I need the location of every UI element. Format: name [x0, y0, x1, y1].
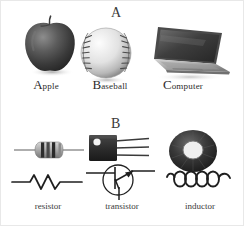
transistor-schematic-symbol: [85, 163, 157, 201]
panel-a: A: [1, 1, 244, 113]
inductor-schematic-symbol: [165, 169, 233, 191]
computer-label: Computer: [141, 75, 225, 93]
resistor-label: resistor: [13, 201, 83, 211]
resistor-schematic-symbol: [11, 171, 83, 193]
panel-a-letter: A: [111, 5, 122, 21]
figure-container: A: [0, 0, 244, 226]
transistor-label: transistor: [87, 201, 157, 211]
panel-b: B: [1, 113, 244, 226]
transistor-photo: [87, 133, 153, 163]
baseball-label-rest: aseball: [101, 81, 127, 91]
apple-label-capital: A: [33, 77, 42, 92]
computer-label-rest: omputer: [172, 81, 203, 91]
apple-photo: [21, 15, 79, 77]
baseball-label-capital: B: [92, 77, 101, 92]
apple-label: Apple: [15, 75, 77, 93]
laptop-photo: [146, 23, 232, 81]
inductor-label: inductor: [165, 201, 235, 211]
baseball-label: Baseball: [73, 75, 147, 93]
panel-b-letter: B: [111, 116, 121, 132]
apple-label-rest: pple: [43, 81, 59, 91]
resistor-photo: [13, 139, 85, 161]
inductor-photo: [167, 129, 219, 173]
computer-label-capital: C: [163, 77, 172, 92]
